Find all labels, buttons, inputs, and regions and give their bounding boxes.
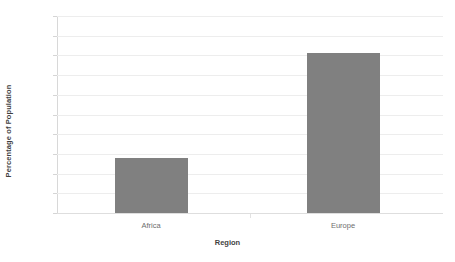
y-axis-tick [53,75,57,76]
x-axis-title: Region [0,238,455,247]
y-axis-tick [53,115,57,116]
y-axis-tick [53,16,57,17]
gridline [57,115,443,116]
y-axis-tick [53,55,57,56]
gridline [57,134,443,135]
y-axis-tick [53,174,57,175]
gridline [57,95,443,96]
gridline [57,75,443,76]
bar-chart: Percentage of Population 100%90%80%70%60… [0,0,455,262]
bar-europe [307,53,380,213]
y-axis-tick [53,36,57,37]
bar-africa [115,158,188,213]
y-axis-tick [53,95,57,96]
gridline [57,154,443,155]
gridline [57,16,443,17]
y-axis-tick [53,134,57,135]
y-axis-tick [53,213,57,214]
category-separator-tick [250,214,251,218]
plot-area: 100%90%80%70%60%50%40%30%20%10%0% [57,16,443,213]
x-tick-label-europe: Europe [283,221,403,230]
y-axis-tick [53,193,57,194]
y-axis-tick [53,154,57,155]
y-axis-title: Percentage of Population [0,0,16,262]
gridline [57,55,443,56]
gridline [57,36,443,37]
x-tick-label-africa: Africa [91,221,211,230]
